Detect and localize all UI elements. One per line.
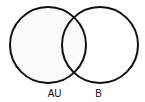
left-circle [10, 7, 86, 83]
left-set-label: AU [48, 88, 62, 99]
right-set-label: B [95, 88, 102, 99]
venn-diagram [0, 0, 145, 102]
